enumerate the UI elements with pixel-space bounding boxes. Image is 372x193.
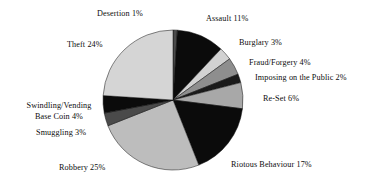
pie-label-burglary: Burglary 3% (239, 38, 282, 48)
pie-slice (103, 30, 173, 100)
pie-slice-group (103, 30, 243, 170)
pie-label-swindling-line2: Base Coin 4% (35, 112, 83, 121)
pie-chart: Desertion 1% Assault 11% Burglary 3% Fra… (0, 0, 372, 193)
pie-label-re-set: Re-Set 6% (263, 94, 299, 104)
pie-label-fraud-forgery: Fraud/Forgery 4% (249, 58, 311, 68)
pie-label-smuggling: Smuggling 3% (36, 128, 86, 138)
pie-label-riotous-behaviour: Riotous Behaviour 17% (231, 160, 312, 170)
pie-label-imposing-on-the-public: Imposing on the Public 2% (255, 73, 347, 83)
pie-label-swindling-line1: Swindling/Vending (27, 101, 92, 110)
pie-label-theft: Theft 24% (67, 40, 103, 50)
pie-label-robbery: Robbery 25% (59, 163, 105, 173)
pie-label-assault: Assault 11% (206, 14, 248, 24)
pie-chart-graphic (0, 0, 372, 193)
pie-label-swindling-vending-base-coin: Swindling/Vending Base Coin 4% (13, 100, 105, 122)
pie-label-desertion: Desertion 1% (97, 9, 143, 19)
